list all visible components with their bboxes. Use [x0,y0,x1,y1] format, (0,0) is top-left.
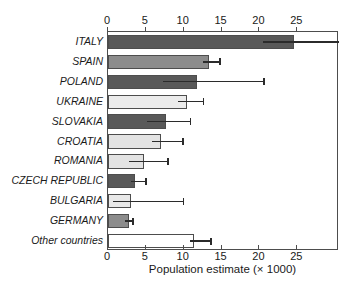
error-bar-cap [210,238,211,245]
x-tick-label: 20 [252,250,264,262]
error-bar-cap [190,118,191,125]
x-tick-label: 5 [142,14,148,26]
bar [108,234,194,248]
error-bar [178,101,204,102]
error-bar [263,41,339,42]
category-label: Other countries [0,234,103,246]
category-label: SLOVAKIA [0,115,103,127]
category-label: CZECH REPUBLIC [0,174,103,186]
x-tick-label: 25 [290,250,302,262]
error-bar [190,240,211,241]
error-bar [131,181,146,182]
error-bar [113,201,183,202]
error-bar-cap [145,178,146,185]
error-bar-cap [203,98,204,105]
error-bar [152,141,183,142]
category-label: UKRAINE [0,95,103,107]
error-bar-cap [182,138,183,145]
x-tick-label: 0 [104,250,110,262]
error-bar-cap [183,198,184,205]
category-label: GERMANY [0,214,103,226]
x-tick-mark [296,245,297,250]
x-axis-title: Population estimate (× 1000) [107,263,338,275]
x-tick-label: 0 [104,14,110,26]
x-tick-mark [107,245,108,250]
error-bar-cap [219,58,220,65]
x-tick-label: 20 [252,14,264,26]
error-bar-cap [263,78,264,85]
x-tick-label: 10 [177,250,189,262]
error-bar [163,81,264,82]
category-label: SPAIN [0,55,103,67]
error-bar [203,61,220,62]
error-bar [147,121,191,122]
bar [108,95,187,109]
x-tick-mark [258,245,259,250]
category-label: CROATIA [0,135,103,147]
category-label: ROMANIA [0,154,103,166]
x-tick-mark [145,245,146,250]
x-tick-mark [221,245,222,250]
x-tick-label: 25 [290,14,302,26]
error-bar [129,161,168,162]
bar [108,55,209,69]
x-tick-label: 10 [177,14,189,26]
x-tick-label: 15 [214,250,226,262]
x-tick-mark [183,245,184,250]
x-tick-label: 5 [142,250,148,262]
error-bar-cap [132,218,133,225]
category-label: ITALY [0,35,103,47]
category-label: POLAND [0,75,103,87]
error-bar-cap [167,158,168,165]
bar-chart: 0510152025 ITALYSPAINPOLANDUKRAINESLOVAK… [0,0,355,286]
plot-area [107,31,338,250]
x-tick-label: 15 [214,14,226,26]
category-label: BULGARIA [0,194,103,206]
